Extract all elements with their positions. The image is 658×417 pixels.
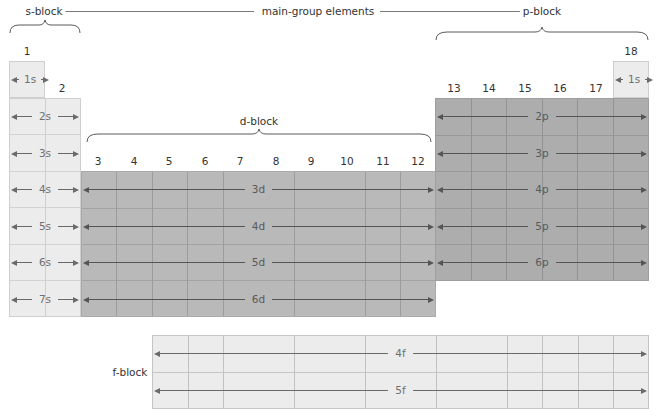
orbital-label: 1s <box>623 74 645 85</box>
p-block-brace <box>435 27 649 41</box>
group-number: 15 <box>518 83 531 94</box>
main-group-label: main-group elements <box>258 6 379 17</box>
orbital-label: 7s <box>32 294 58 305</box>
orbital-label: 3d <box>245 184 272 195</box>
arrow-right-icon <box>647 77 653 83</box>
arrow-right-icon <box>43 77 49 83</box>
f-block <box>152 335 649 409</box>
orbital-label: 5p <box>528 221 555 232</box>
arrow-right-icon <box>73 297 79 303</box>
group-number: 10 <box>340 156 353 167</box>
arrow-right-icon <box>641 388 647 394</box>
group-number: 14 <box>482 83 495 94</box>
group-number: 9 <box>308 156 315 167</box>
orbital-arrow-4f: 4f <box>154 348 647 359</box>
orbital-arrow-3p: 3p <box>437 148 647 159</box>
orbital-arrow-5s: 5s <box>11 221 79 232</box>
orbital-arrow-6s: 6s <box>11 257 79 268</box>
arrow-right-icon <box>641 187 647 193</box>
arrow-right-icon <box>73 151 79 157</box>
group-number: 8 <box>273 156 280 167</box>
arrow-right-icon <box>73 187 79 193</box>
arrow-right-icon <box>73 224 79 230</box>
p-block-label: p-block <box>520 6 564 17</box>
orbital-arrow-4s: 4s <box>11 184 79 195</box>
d-block-brace <box>86 129 432 143</box>
group-number: 3 <box>95 156 102 167</box>
arrow-right-icon <box>428 260 434 266</box>
group-number: 1 <box>24 46 31 57</box>
orbital-label: 3s <box>32 148 58 159</box>
group-number: 18 <box>624 46 637 57</box>
arrow-right-icon <box>73 114 79 120</box>
arrow-right-icon <box>641 260 647 266</box>
orbital-arrow-1s-he: 1s <box>615 74 647 85</box>
orbital-label: 6s <box>32 257 58 268</box>
orbital-arrow-3s: 3s <box>11 148 79 159</box>
group-number: 6 <box>202 156 209 167</box>
orbital-label: 4p <box>528 184 555 195</box>
orbital-label: 3p <box>528 148 555 159</box>
f-block-label: f-block <box>113 367 148 378</box>
arrow-right-icon <box>641 151 647 157</box>
s-block-main <box>9 98 81 317</box>
orbital-arrow-2p: 2p <box>437 111 647 122</box>
arrow-right-icon <box>641 114 647 120</box>
s-block-brace <box>9 20 81 34</box>
orbital-arrow-7s: 7s <box>11 294 79 305</box>
arrow-right-icon <box>428 224 434 230</box>
group-number: 12 <box>411 156 424 167</box>
group-number: 2 <box>59 83 66 94</box>
orbital-arrow-4d: 4d <box>83 221 434 232</box>
arrow-right-icon <box>641 351 647 357</box>
orbital-arrow-5p: 5p <box>437 221 647 232</box>
arrow-right-icon <box>73 260 79 266</box>
arrow-right-icon <box>428 187 434 193</box>
arrow-right-icon <box>641 224 647 230</box>
orbital-label: 5s <box>32 221 58 232</box>
group-number: 13 <box>447 83 460 94</box>
orbital-arrow-4p: 4p <box>437 184 647 195</box>
d-block-label: d-block <box>240 116 278 127</box>
orbital-arrow-5f: 5f <box>154 385 647 396</box>
orbital-label: 4f <box>388 348 412 359</box>
main-group-line-left <box>64 11 254 12</box>
orbital-label: 2p <box>528 111 555 122</box>
arrow-right-icon <box>428 297 434 303</box>
orbital-label: 5d <box>245 257 272 268</box>
orbital-arrow-1s: 1s <box>11 74 43 85</box>
group-number: 7 <box>237 156 244 167</box>
orbital-arrow-6d: 6d <box>83 294 434 305</box>
orbital-arrow-3d: 3d <box>83 184 434 195</box>
orbital-arrow-5d: 5d <box>83 257 434 268</box>
orbital-label: 6p <box>528 257 555 268</box>
orbital-label: 4s <box>32 184 58 195</box>
group-number: 17 <box>589 83 602 94</box>
group-number: 4 <box>131 156 138 167</box>
group-number: 5 <box>166 156 173 167</box>
s-block-label: s-block <box>22 6 65 17</box>
orbital-arrow-2s: 2s <box>11 111 79 122</box>
orbital-label: 2s <box>32 111 58 122</box>
orbital-label: 4d <box>245 221 272 232</box>
orbital-arrow-6p: 6p <box>437 257 647 268</box>
group-number: 11 <box>376 156 389 167</box>
group-number: 16 <box>553 83 566 94</box>
orbital-label: 1s <box>19 74 41 85</box>
orbital-label: 5f <box>388 385 412 396</box>
orbital-label: 6d <box>245 294 272 305</box>
